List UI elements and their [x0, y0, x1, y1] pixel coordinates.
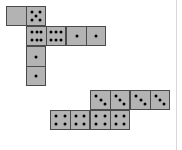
domino-half: [51, 111, 70, 129]
pip-dot: [55, 122, 58, 125]
domino-half: [110, 91, 129, 109]
pip-dot: [154, 94, 157, 97]
pip-dot: [38, 10, 41, 13]
right-edge-rule: [176, 0, 177, 150]
pip-dot: [35, 55, 38, 58]
domino-half: [27, 47, 45, 66]
pip-dot: [115, 115, 118, 118]
domino-tile: [90, 90, 130, 110]
pip-dot: [144, 103, 147, 106]
pip-dot: [75, 115, 78, 118]
pip-dot: [59, 31, 62, 34]
pip-dot: [82, 122, 85, 125]
pip-dot: [134, 94, 137, 97]
pip-dot: [163, 103, 166, 106]
pip-dot: [63, 115, 66, 118]
pip-dot: [95, 35, 98, 38]
pip-dot: [95, 115, 98, 118]
domino-half: [150, 91, 169, 109]
pip-dot: [123, 103, 126, 106]
pip-dot: [40, 31, 43, 34]
pip-dot: [75, 122, 78, 125]
pip-dot: [35, 38, 38, 41]
pip-dot: [139, 99, 142, 102]
domino-tile: [50, 110, 90, 130]
domino-figure-canvas: [0, 0, 182, 150]
pip-dot: [75, 35, 78, 38]
pip-dot: [55, 115, 58, 118]
pip-dot: [35, 15, 38, 18]
domino-half: [131, 91, 150, 109]
domino-tile: [90, 110, 130, 130]
domino-half: [110, 111, 129, 129]
domino-half: [7, 7, 26, 25]
domino-half: [27, 27, 46, 45]
pip-dot: [95, 122, 98, 125]
domino-half: [70, 111, 89, 129]
domino-tile: [66, 26, 106, 46]
pip-dot: [104, 103, 107, 106]
pip-dot: [82, 115, 85, 118]
pip-dot: [103, 115, 106, 118]
pip-dot: [31, 19, 34, 22]
pip-dot: [50, 38, 53, 41]
domino-half: [27, 66, 45, 85]
domino-half: [26, 7, 45, 25]
pip-dot: [50, 31, 53, 34]
pip-dot: [103, 122, 106, 125]
domino-half: [86, 27, 105, 45]
pip-dot: [38, 19, 41, 22]
domino-tile: [26, 46, 46, 86]
pip-dot: [122, 115, 125, 118]
domino-tile: [6, 6, 46, 26]
pip-dot: [59, 38, 62, 41]
pip-dot: [35, 75, 38, 78]
pip-dot: [159, 99, 162, 102]
pip-dot: [40, 38, 43, 41]
pip-dot: [114, 94, 117, 97]
pip-dot: [30, 31, 33, 34]
pip-dot: [119, 99, 122, 102]
pip-dot: [55, 31, 58, 34]
pip-dot: [94, 94, 97, 97]
pip-dot: [35, 31, 38, 34]
pip-dot: [55, 38, 58, 41]
pip-dot: [31, 10, 34, 13]
pip-dot: [30, 38, 33, 41]
domino-tile: [26, 26, 66, 46]
pip-dot: [63, 122, 66, 125]
domino-tile: [130, 90, 170, 110]
pip-dot: [122, 122, 125, 125]
domino-half: [91, 91, 110, 109]
domino-half: [91, 111, 110, 129]
pip-dot: [115, 122, 118, 125]
pip-dot: [99, 99, 102, 102]
domino-half: [46, 27, 65, 45]
domino-half: [67, 27, 86, 45]
